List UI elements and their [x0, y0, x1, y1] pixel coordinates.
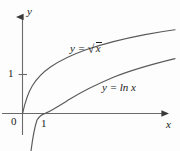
x-axis-label: x — [166, 119, 171, 130]
origin-label: 0 — [11, 116, 17, 127]
y-axis-label: y — [27, 6, 32, 17]
curve-label-sqrt: y = √ x — [70, 42, 102, 54]
figure-container: y x 0 1 1 y = √ x y = ln x — [0, 0, 180, 151]
graph-plot-area — [0, 0, 180, 151]
radicand-x: x — [96, 42, 102, 54]
x-axis-tick-label-1: 1 — [41, 118, 47, 129]
radical-group: √ x — [88, 42, 102, 54]
sqrt-equation-prefix: y = — [70, 43, 85, 54]
curve-label-ln: y = ln x — [102, 82, 136, 93]
curve-ln — [31, 59, 175, 151]
radical-sign: √ — [88, 43, 95, 55]
y-axis-tick-label-1: 1 — [8, 68, 14, 79]
